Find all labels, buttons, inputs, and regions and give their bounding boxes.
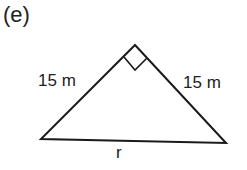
right-angle-marker [124,57,147,70]
base-side-label: r [116,144,122,162]
triangle [41,45,226,143]
right-side-label: 15 m [183,74,221,92]
left-side-label: 15 m [38,72,76,90]
